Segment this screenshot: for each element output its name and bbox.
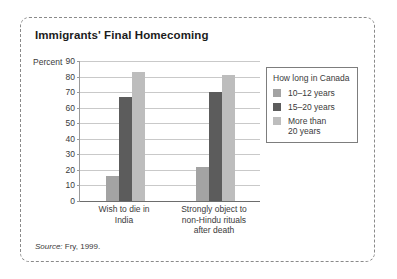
- x-axis-label: Strongly object tonon-Hindu ritualsafter…: [169, 204, 259, 236]
- page-title: Immigrants' Final Homecoming: [35, 29, 209, 41]
- legend-label: More than 20 years: [288, 116, 326, 136]
- x-axis-category-labels: Wish to die inIndiaStrongly object tonon…: [79, 204, 261, 244]
- legend-label: 15–20 years: [288, 102, 335, 112]
- legend-swatch-icon: [273, 89, 281, 97]
- x-axis-label-line: Wish to die in: [79, 204, 169, 215]
- bars-layer: [80, 61, 260, 201]
- bar: [119, 97, 132, 201]
- y-tick-label: 50: [66, 118, 75, 128]
- source-label: Source:: [35, 242, 63, 251]
- legend-item: 15–20 years: [273, 102, 351, 112]
- legend: How long in Canada 10–12 years15–20 year…: [266, 67, 358, 143]
- y-tick-label: 10: [66, 180, 75, 190]
- x-axis-label-line: non-Hindu rituals: [169, 215, 259, 226]
- bar-group: [196, 61, 235, 201]
- legend-swatch-icon: [273, 103, 281, 111]
- legend-item: 10–12 years: [273, 88, 351, 98]
- bar: [106, 176, 119, 201]
- source-note: Source: Fry, 1999.: [35, 242, 100, 251]
- y-tick-label: 70: [66, 87, 75, 97]
- x-axis-label: Wish to die inIndia: [79, 204, 169, 225]
- y-axis-tick-labels: 0102030405060708090: [57, 61, 75, 201]
- bar: [209, 92, 222, 201]
- y-tick-label: 30: [66, 149, 75, 159]
- bar: [132, 72, 145, 201]
- x-axis-label-line: India: [79, 215, 169, 226]
- y-tick-label: 80: [66, 72, 75, 82]
- figure-card: Immigrants' Final Homecoming Percent 010…: [20, 17, 375, 262]
- source-value: Fry, 1999.: [63, 242, 101, 251]
- y-tick-label: 60: [66, 103, 75, 113]
- y-tick-label: 0: [70, 196, 75, 206]
- y-tick-label: 90: [66, 56, 75, 66]
- legend-label: 10–12 years: [288, 88, 335, 98]
- y-tickmark: [77, 201, 80, 202]
- bar: [196, 167, 209, 201]
- plot-area: [79, 61, 260, 202]
- legend-item: More than 20 years: [273, 116, 351, 136]
- bar-group: [106, 61, 145, 201]
- x-axis-label-line: Strongly object to: [169, 204, 259, 215]
- legend-title: How long in Canada: [273, 73, 351, 83]
- y-tick-label: 40: [66, 134, 75, 144]
- legend-swatch-icon: [273, 117, 281, 125]
- y-tick-label: 20: [66, 165, 75, 175]
- plot-wrapper: 0102030405060708090: [79, 61, 259, 201]
- legend-items: 10–12 years15–20 yearsMore than 20 years: [273, 88, 351, 136]
- bar: [222, 75, 235, 201]
- x-axis-label-line: after death: [169, 225, 259, 236]
